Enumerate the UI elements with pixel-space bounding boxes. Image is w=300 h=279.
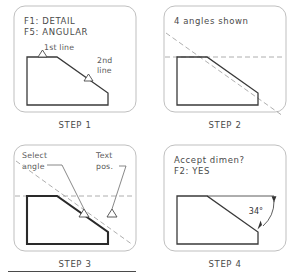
part-outline (27, 57, 108, 105)
pick-marker-text-position (107, 209, 117, 217)
angle-dimension-value: 34° (249, 207, 263, 216)
panel-border (14, 145, 136, 251)
panel-caption-2: STEP 2 (209, 120, 242, 130)
prompt-line-1: Accept dimen? (174, 155, 245, 165)
angle-arrow-lower (258, 221, 263, 230)
panel-step-4: Accept dimen? F2: YES 34° STEP 4 (150, 139, 300, 278)
panel-step-1: F1: DETAIL F5: ANGULAR 1st line 2nd line… (0, 0, 150, 139)
panel-step-2: 4 angles shown STEP 2 (150, 0, 300, 139)
panel-caption-1: STEP 1 (59, 120, 92, 130)
part-outline (177, 196, 258, 244)
panel-step-3: Select angle Text pos. STEP 3 (0, 139, 150, 278)
slope-construction-line (16, 161, 133, 245)
drawing-sheet: F1: DETAIL F5: ANGULAR 1st line 2nd line… (0, 0, 300, 279)
panel-caption-4: STEP 4 (209, 259, 242, 269)
panel-caption-3: STEP 3 (59, 259, 92, 269)
angle-dimension-arc (263, 201, 274, 226)
second-line-label-row2: line (97, 66, 112, 75)
select-angle-label-row2: angle (22, 162, 45, 171)
text-pos-label-row2: pos. (96, 162, 113, 171)
slope-construction-line (166, 33, 283, 116)
select-angle-label-row1: Select (22, 151, 47, 160)
prompt-line-2: F2: YES (174, 166, 210, 176)
part-outline (177, 57, 258, 105)
second-line-label-row1: 2nd (97, 56, 112, 65)
angle-arrow-upper (272, 196, 277, 202)
part-outline (27, 196, 108, 244)
footer-rule (8, 271, 136, 272)
text-pos-leader (112, 166, 126, 209)
prompt-line-2: F5: ANGULAR (24, 27, 88, 37)
prompt-line-1: F1: DETAIL (24, 16, 75, 26)
text-pos-label-row1: Text (95, 151, 113, 160)
prompt-line-1: 4 angles shown (174, 16, 249, 26)
first-line-label: 1st line (44, 43, 74, 52)
